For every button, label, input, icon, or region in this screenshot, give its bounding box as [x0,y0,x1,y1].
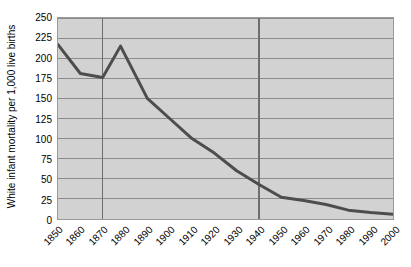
x-axis-tick-label-text: 1870 [84,224,110,250]
x-axis-tick-label-text: 2000 [376,224,402,250]
chart-canvas [58,18,393,219]
x-axis-tick-label: 1940 [241,224,267,250]
x-axis-tick-label-text: 1920 [196,224,222,250]
x-axis-tick-label: 1910 [173,224,199,250]
x-axis-tick-label: 1890 [128,224,154,250]
y-axis-tick-label: 100 [35,133,52,144]
x-axis-tick-label: 1980 [331,224,357,250]
x-axis-tick-label-text: 1980 [331,224,357,250]
x-axis-tick-label: 1950 [263,224,289,250]
chart-figure: White infant mortality per 1,000 live bi… [0,0,411,267]
y-axis-tick-label: 75 [41,154,52,165]
x-axis-tick-label-text: 1900 [151,224,177,250]
x-axis-tick-label: 1970 [308,224,334,250]
y-axis-title: White infant mortality per 1,000 live bi… [0,0,24,232]
y-axis-title-text: White infant mortality per 1,000 live bi… [7,24,18,207]
x-axis-tick-label: 2000 [376,224,402,250]
x-axis-tick-labels: 1850186018701880189019001910192019301940… [57,220,394,267]
y-axis-tick-label: 150 [35,93,52,104]
x-axis-tick-label-text: 1880 [106,224,132,250]
data-series-line [58,45,393,215]
y-axis-tick-label: 200 [35,52,52,63]
y-axis-tick-label: 175 [35,72,52,83]
x-axis-tick-label: 1900 [151,224,177,250]
x-axis-tick-label: 1990 [353,224,379,250]
x-axis-tick-label-text: 1930 [218,224,244,250]
x-axis-tick-label: 1870 [84,224,110,250]
x-axis-tick-label-text: 1890 [128,224,154,250]
y-axis-tick-label: 0 [46,215,52,226]
y-axis-tick-label: 225 [35,32,52,43]
x-axis-tick-label: 1920 [196,224,222,250]
x-axis-tick-label-text: 1990 [353,224,379,250]
y-axis-tick-label: 25 [41,194,52,205]
x-axis-tick-label: 1880 [106,224,132,250]
y-axis-tick-labels: 2502252001751501251007550250 [22,0,56,232]
y-axis-tick-label: 125 [35,113,52,124]
x-axis-tick-label: 1960 [286,224,312,250]
x-axis-tick-label-text: 1860 [61,224,87,250]
x-axis-tick-label-text: 1970 [308,224,334,250]
y-axis-tick-label: 250 [35,12,52,23]
x-axis-tick-label: 1930 [218,224,244,250]
x-axis-tick-label-text: 1950 [263,224,289,250]
x-axis-tick-label: 1860 [61,224,87,250]
x-axis-tick-label-text: 1960 [286,224,312,250]
plot-area [57,17,394,220]
y-axis-tick-label: 50 [41,174,52,185]
x-axis-tick-label-text: 1940 [241,224,267,250]
x-axis-tick-label-text: 1910 [173,224,199,250]
